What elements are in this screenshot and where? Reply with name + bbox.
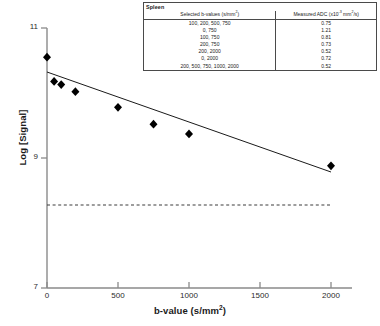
column-header-adc-mid: mm <box>342 11 352 17</box>
column-header-b-values-tail: ) <box>237 11 239 17</box>
data-point <box>43 53 51 62</box>
x-axis-title-main: b-value (s/mm <box>154 305 219 316</box>
table-row: 200, 7500.73 <box>144 41 376 48</box>
column-header-b-values: Selected b-values (s/mm2) <box>144 11 276 20</box>
fit-line <box>47 72 331 172</box>
cell-adc-value: 0.52 <box>276 63 376 70</box>
table-row: 100, 200, 500, 7500.75 <box>144 20 376 28</box>
data-point <box>114 103 122 112</box>
data-point <box>185 130 193 139</box>
table-grid: Selected b-values (s/mm2) Measured ADC (… <box>144 11 376 70</box>
y-tick-label-7: 7 <box>16 282 38 291</box>
y-axis-ticks <box>41 28 47 288</box>
column-header-adc: Measured ADC (x10-3 mm2/s) <box>276 11 376 20</box>
cell-b-values: 200, 500, 750, 1000, 2000 <box>144 63 276 70</box>
x-tick-label-1000: 1000 <box>169 291 209 300</box>
table-row: 100, 7500.81 <box>144 34 376 41</box>
y-axis-title: Log [Signal] <box>17 88 28 188</box>
x-tick-label-500: 500 <box>98 291 138 300</box>
table-row: 0, 7501.21 <box>144 27 376 34</box>
cell-b-values: 0, 2000 <box>144 56 276 63</box>
cell-adc-value: 0.72 <box>276 56 376 63</box>
data-point <box>71 87 79 96</box>
table-row: 0, 20000.72 <box>144 56 376 63</box>
x-tick-label-2000: 2000 <box>311 291 351 300</box>
table-body: 100, 200, 500, 7500.750, 7501.21100, 750… <box>144 20 376 70</box>
x-tick-label-0: 0 <box>27 291 67 300</box>
x-axis-ticks <box>47 282 331 288</box>
x-tick-label-1500: 1500 <box>240 291 280 300</box>
x-axis-title: b-value (s/mm2) <box>0 305 380 316</box>
table-head: Selected b-values (s/mm2) Measured ADC (… <box>144 11 376 20</box>
x-axis-title-tail: ) <box>223 305 226 316</box>
data-point <box>327 161 335 170</box>
y-tick-label-11: 11 <box>16 22 38 31</box>
column-header-b-values-text: Selected b-values (s/mm <box>180 11 235 17</box>
table-row: 200, 20000.52 <box>144 49 376 56</box>
column-header-adc-text: Measured ADC (x10 <box>293 11 338 17</box>
data-point <box>150 120 158 129</box>
figure-panel: 11 9 7 0 500 1000 1500 2000 Log [Signal]… <box>0 0 380 326</box>
table-header-row: Selected b-values (s/mm2) Measured ADC (… <box>144 11 376 20</box>
column-header-adc-tail: /s) <box>353 11 359 17</box>
data-point <box>57 80 65 89</box>
adc-results-table: Spleen Selected b-values (s/mm2) Measure… <box>143 2 377 71</box>
table-row: 200, 500, 750, 1000, 20000.52 <box>144 63 376 70</box>
data-point <box>50 77 58 86</box>
